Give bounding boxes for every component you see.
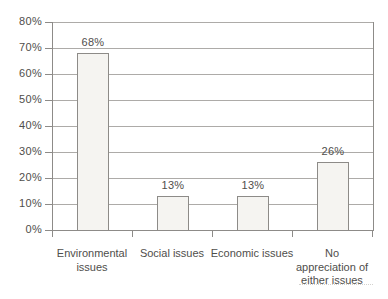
category-label: Social issues bbox=[126, 247, 218, 261]
bar-value-label: 13% bbox=[133, 179, 213, 191]
gridline bbox=[53, 22, 373, 23]
y-tick-mark bbox=[45, 22, 52, 23]
bar-value-label: 68% bbox=[53, 36, 133, 48]
y-tick-label: 60% bbox=[0, 67, 42, 79]
y-tick-label: 50% bbox=[0, 93, 42, 105]
x-tick-mark bbox=[132, 231, 133, 237]
x-tick-mark bbox=[52, 231, 53, 237]
y-tick-label: 40% bbox=[0, 119, 42, 131]
plot-area: 68%13%13%26% bbox=[52, 22, 374, 231]
bar-chart-figure: 68%13%13%26% 0%10%20%30%40%50%60%70%80%E… bbox=[0, 0, 388, 299]
y-tick-mark bbox=[45, 100, 52, 101]
y-tick-mark bbox=[45, 126, 52, 127]
y-tick-mark bbox=[45, 230, 52, 231]
y-tick-mark bbox=[45, 178, 52, 179]
x-tick-mark bbox=[372, 231, 373, 237]
y-tick-label: 20% bbox=[0, 171, 42, 183]
category-label: Noappreciation ofeither issues bbox=[286, 247, 378, 288]
bar bbox=[237, 196, 269, 230]
y-tick-mark bbox=[45, 48, 52, 49]
x-tick-mark bbox=[292, 231, 293, 237]
y-tick-mark bbox=[45, 204, 52, 205]
bar bbox=[77, 53, 109, 230]
y-tick-label: 80% bbox=[0, 15, 42, 27]
x-tick-mark bbox=[212, 231, 213, 237]
bar-value-label: 26% bbox=[293, 145, 373, 157]
bar bbox=[317, 162, 349, 230]
bar bbox=[157, 196, 189, 230]
y-tick-label: 30% bbox=[0, 145, 42, 157]
y-tick-mark bbox=[45, 74, 52, 75]
y-tick-label: 0% bbox=[0, 223, 42, 235]
bar-value-label: 13% bbox=[213, 179, 293, 191]
y-tick-label: 10% bbox=[0, 197, 42, 209]
y-tick-label: 70% bbox=[0, 41, 42, 53]
category-label: Economic issues bbox=[206, 247, 298, 261]
y-tick-mark bbox=[45, 152, 52, 153]
category-label: Environmentalissues bbox=[46, 247, 138, 274]
